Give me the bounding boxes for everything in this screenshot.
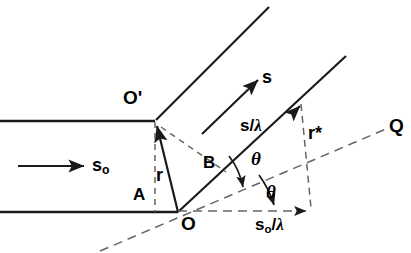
label-r: r [156,166,163,184]
scattering-geometry-figure: O' O A B r r* Q s so s/λ so/λ θ θ [0,0,411,253]
label-o-prime: O' [123,88,142,107]
label-s-zero: so [92,156,110,176]
s-over-lambda-denominator: λ [254,116,262,135]
label-o: O [181,214,196,233]
theta-upper-arc [229,156,243,187]
label-s-zero-subscript: o [102,163,109,177]
scattered-ray-upper [156,7,269,120]
label-s0-over-lambda: so/λ [255,216,284,235]
dashed-o-prime-to-b [161,127,226,172]
label-q: Q [389,116,404,135]
label-theta-lower: θ [266,182,276,201]
label-theta-upper: θ [251,149,261,168]
label-s-over-lambda: s/λ [240,117,262,134]
s-over-lambda-arrowhead [292,106,300,114]
r-star-dashed-line [301,104,311,208]
label-point-a: A [133,186,145,203]
label-s-vector: s [262,68,272,86]
label-r-star: r* [308,124,322,142]
diagram-canvas [0,0,411,253]
s0-over-lambda-subscript: o [264,223,271,235]
s0-over-lambda-denominator: λ [276,215,284,234]
label-point-b: B [203,154,215,171]
